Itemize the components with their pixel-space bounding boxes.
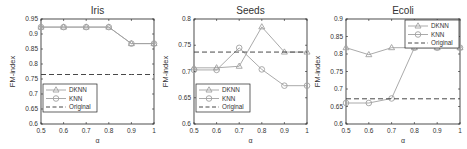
chart-seeds: Seeds0.50.60.70.80.910.60.650.70.750.8αF… [153,0,313,149]
x-tick-label: 0.9 [280,127,289,134]
x-tick-label: 0.7 [235,127,244,134]
y-tick-label: 0.75 [330,68,343,75]
x-tick-label: 0.7 [387,127,396,134]
y-tick-label: 0.9 [29,30,38,37]
y-axis-label: FM-index [8,56,17,88]
y-tick-label: 0.8 [29,60,38,67]
chart-title: Iris [91,5,104,16]
y-tick-label: 0.65 [178,94,191,101]
x-tick-label: 0.8 [257,127,266,134]
x-axis-label: α [248,137,252,144]
y-tick-label: 0.65 [25,105,38,112]
chart-iris: Iris0.50.60.70.80.910.60.650.70.750.80.8… [0,0,160,149]
y-tick-label: 0.65 [330,103,343,110]
chart-title: Ecoli [392,5,414,16]
legend: DKNNKNNOriginal [196,84,250,112]
x-tick-label: 0.9 [433,127,442,134]
x-tick-label: 0.8 [104,127,113,134]
x-tick-label: 0.6 [212,127,221,134]
x-axis-label: α [401,137,405,144]
legend: DKNNKNNOriginal [405,20,459,48]
x-tick-label: 0.9 [127,127,136,134]
legend-label-original: Original [431,39,453,47]
y-tick-label: 0.8 [182,15,191,22]
y-axis-label: FM-index [161,56,170,88]
y-axis-label: FM-index [313,56,322,88]
legend-label-dknn: DKNN [69,86,87,93]
chart-title: Seeds [236,5,264,16]
y-tick-label: 0.85 [330,33,343,40]
y-tick-label: 0.7 [182,68,191,75]
legend-label-dknn: DKNN [222,86,240,93]
x-tick-label: 0.8 [410,127,419,134]
legend-label-dknn: DKNN [431,22,449,29]
y-tick-label: 0.85 [25,45,38,52]
y-tick-label: 0.6 [182,120,191,127]
y-tick-label: 0.7 [29,90,38,97]
x-axis-label: α [95,137,99,144]
y-tick-label: 0.9 [334,15,343,22]
y-tick-label: 0.95 [25,15,38,22]
y-tick-label: 0.75 [178,41,191,48]
x-tick-label: 0.5 [189,127,198,134]
legend-label-knn: KNN [222,95,236,102]
legend: DKNNKNNOriginal [43,84,97,112]
x-tick-label: 0.5 [36,127,45,134]
y-tick-label: 0.6 [334,120,343,127]
y-tick-label: 0.7 [334,85,343,92]
legend-label-knn: KNN [69,95,83,102]
x-tick-label: 0.5 [341,127,350,134]
x-tick-label: 0.6 [59,127,68,134]
y-tick-label: 0.8 [334,50,343,57]
legend-label-original: Original [222,103,244,111]
x-tick-label: 0.7 [82,127,91,134]
y-tick-label: 0.6 [29,120,38,127]
chart-ecoli: Ecoli0.50.60.70.80.910.60.650.70.750.80.… [305,0,467,149]
legend-label-knn: KNN [431,31,445,38]
x-tick-label: 1 [458,127,462,134]
y-tick-label: 0.75 [25,75,38,82]
x-tick-label: 0.6 [364,127,373,134]
legend-label-original: Original [69,103,91,111]
